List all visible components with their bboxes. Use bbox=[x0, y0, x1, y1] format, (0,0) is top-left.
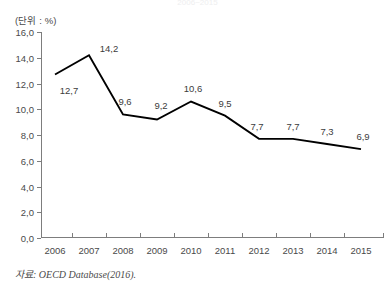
data-point-label: 7,7 bbox=[250, 120, 263, 131]
x-tick-mark bbox=[383, 233, 384, 238]
data-point-label: 9,5 bbox=[218, 97, 231, 108]
x-tick-label: 2008 bbox=[112, 245, 133, 256]
x-tick-label: 2012 bbox=[248, 245, 269, 256]
y-tick-label: 0,0 bbox=[21, 233, 34, 244]
source-note: 자료: OECD Database(2016). bbox=[15, 266, 136, 281]
y-tick-mark bbox=[37, 238, 41, 239]
y-tick-label: 10,0 bbox=[16, 104, 35, 115]
cropped-title: 2006~2015 bbox=[110, 0, 285, 5]
data-point-label: 10,6 bbox=[184, 82, 203, 93]
x-tick-label: 2009 bbox=[146, 245, 167, 256]
x-tick-label: 2006 bbox=[44, 245, 65, 256]
x-tick-label: 2010 bbox=[180, 245, 201, 256]
x-tick-label: 2011 bbox=[215, 245, 235, 256]
data-point-label: 14,2 bbox=[100, 43, 119, 54]
chart-page: 2006~2015 (단위 : %) 0,02,04,06,08,010,012… bbox=[0, 0, 391, 289]
data-point-label: 7,3 bbox=[320, 126, 333, 137]
plot-area: 0,02,04,06,08,010,012,014,016,0 20062007… bbox=[41, 32, 383, 238]
x-tick-label: 2007 bbox=[78, 245, 99, 256]
y-tick-label: 6,0 bbox=[21, 155, 34, 166]
data-point-label: 12,7 bbox=[60, 85, 79, 96]
unit-label: (단위 : %) bbox=[15, 13, 57, 27]
y-tick-label: 8,0 bbox=[21, 130, 34, 141]
y-tick-label: 14,0 bbox=[16, 52, 35, 63]
data-point-label: 9,2 bbox=[154, 99, 167, 110]
data-point-label: 6,9 bbox=[356, 131, 369, 142]
y-tick-label: 4,0 bbox=[21, 181, 34, 192]
y-tick-label: 12,0 bbox=[16, 78, 35, 89]
data-point-label: 7,7 bbox=[286, 120, 299, 131]
y-tick-label: 16,0 bbox=[16, 27, 35, 38]
x-tick-label: 2014 bbox=[316, 245, 337, 256]
x-tick-label: 2015 bbox=[350, 245, 371, 256]
y-tick-label: 2,0 bbox=[21, 207, 34, 218]
x-tick-label: 2013 bbox=[282, 245, 303, 256]
data-point-label: 9,6 bbox=[118, 96, 131, 107]
